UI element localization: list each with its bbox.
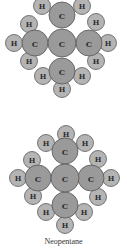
hydrogen-label: H — [95, 155, 102, 164]
hydrogen-label: H — [93, 18, 100, 27]
hydrogen-label: H — [59, 85, 66, 94]
carbon-label: C — [32, 39, 38, 49]
hydrogen-label: H — [105, 39, 112, 48]
hydrogen-label: H — [63, 130, 70, 139]
figure-caption: Neopentane — [0, 237, 127, 246]
carbon-label: C — [59, 39, 65, 49]
hydrogen-label: H — [29, 156, 36, 165]
hydrogen-label: H — [11, 39, 18, 48]
carbon-label: C — [59, 11, 65, 21]
hydrogen-label: H — [93, 57, 100, 66]
carbon-label: C — [62, 174, 68, 184]
neopentane-space-filling-models: HHHHHHHHHHHCCCCCHHHHHHHHHHHHCCCCC — [0, 0, 127, 249]
neopentane-model-top: HHHHHHHHHHHCCCCC — [6, 0, 117, 98]
hydrogen-label: H — [40, 72, 47, 81]
carbon-label: C — [62, 201, 68, 211]
neopentane-model-bottom: HHHHHHHHHHHHCCCCC — [10, 126, 120, 234]
hydrogen-label: H — [108, 174, 115, 183]
hydrogen-label: H — [82, 139, 89, 148]
carbon-label: C — [35, 174, 41, 184]
hydrogen-label: H — [95, 193, 102, 202]
hydrogen-label: H — [81, 208, 88, 217]
hydrogen-label: H — [15, 174, 22, 183]
hydrogen-label: H — [79, 2, 86, 11]
hydrogen-label: H — [26, 20, 33, 29]
hydrogen-label: H — [62, 221, 69, 230]
hydrogen-label: H — [43, 208, 50, 217]
hydrogen-label: H — [43, 139, 50, 148]
hydrogen-label: H — [39, 2, 46, 11]
hydrogen-label: H — [26, 57, 33, 66]
hydrogen-label: H — [30, 192, 37, 201]
carbon-label: C — [88, 174, 94, 184]
carbon-label: C — [59, 67, 65, 77]
carbon-label: C — [62, 147, 68, 157]
hydrogen-label: H — [79, 72, 86, 81]
carbon-label: C — [86, 39, 92, 49]
